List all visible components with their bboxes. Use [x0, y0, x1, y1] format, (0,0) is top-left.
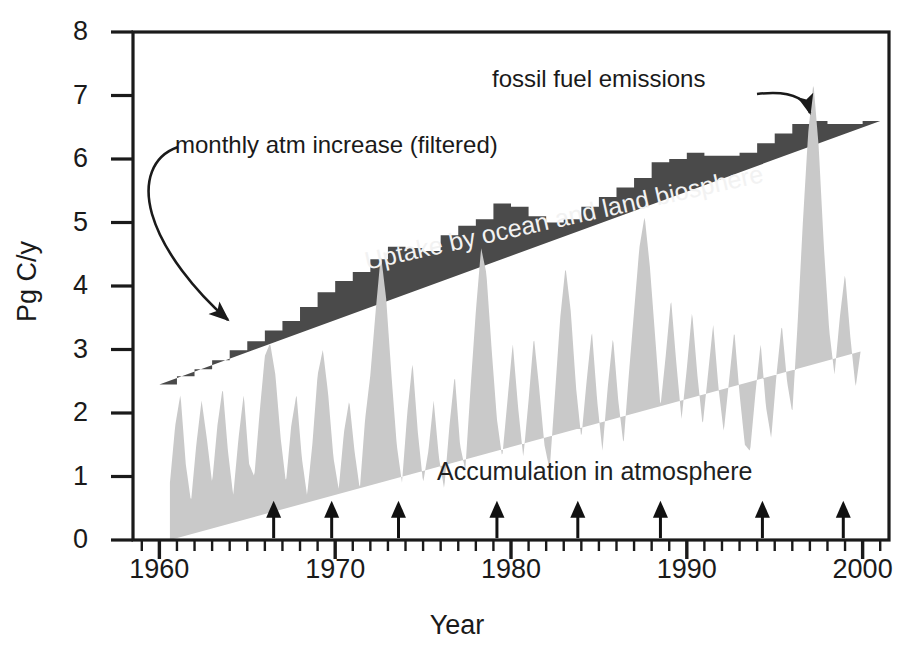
fossil-fuel-arrow [757, 93, 810, 113]
annotation-accumulation-in-atmosphere: Accumulation in atmosphere [437, 458, 752, 484]
y-axis-ticks [111, 32, 133, 540]
monthly-increase-arrow [149, 147, 228, 320]
y-axis-tick-6: 6 [48, 145, 88, 172]
y-axis-label: Pg C/y [14, 217, 41, 347]
x-axis-tick-1990: 1990 [627, 556, 747, 583]
area-uptake-by-ocean-and-land-biosphere [159, 121, 880, 385]
x-axis-tick-1970: 1970 [275, 556, 395, 583]
y-axis-tick-8: 8 [48, 18, 88, 45]
x-axis-label: Year [0, 612, 914, 639]
el-nino-event-markers [266, 501, 851, 538]
chart-figure: 012345678 Pg C/y 19601970198019902000 Ye… [0, 0, 914, 671]
y-axis-tick-5: 5 [48, 209, 88, 236]
y-axis-tick-1: 1 [48, 463, 88, 490]
annotation-monthly-atm-increase: monthly atm increase (filtered) [175, 132, 498, 158]
annotation-fossil-fuel-emissions: fossil fuel emissions [492, 66, 705, 92]
x-axis-tick-1960: 1960 [99, 556, 219, 583]
y-axis-tick-labels: 012345678 [48, 0, 88, 671]
x-axis-tick-1980: 1980 [451, 556, 571, 583]
y-axis-tick-4: 4 [48, 272, 88, 299]
y-axis-tick-2: 2 [48, 399, 88, 426]
x-axis-tick-2000: 2000 [803, 556, 914, 583]
y-axis-tick-3: 3 [48, 336, 88, 363]
y-axis-tick-0: 0 [48, 526, 88, 553]
y-axis-tick-7: 7 [48, 82, 88, 109]
